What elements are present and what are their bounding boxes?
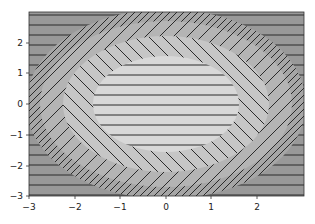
x-tick-label: −1 xyxy=(113,202,126,212)
x-tick-label: −2 xyxy=(68,202,81,212)
y-tick-label: −1 xyxy=(10,130,23,140)
x-axis: −3 −2 −1 0 1 2 xyxy=(22,196,260,212)
y-tick-label: −2 xyxy=(10,161,23,171)
contour-band-1 xyxy=(93,56,239,152)
x-tick-label: −3 xyxy=(22,202,35,212)
x-tick-label: 2 xyxy=(254,202,260,212)
x-tick-label: 0 xyxy=(163,202,169,212)
y-tick-label: 1 xyxy=(17,68,23,78)
y-axis: −3 −2 −1 0 1 2 xyxy=(10,38,29,201)
y-tick-label: −3 xyxy=(10,191,23,201)
x-tick-label: 1 xyxy=(208,202,214,212)
y-tick-label: 0 xyxy=(17,99,23,109)
contour-bands xyxy=(26,9,306,199)
contour-chart: −3 −2 −1 0 1 2 −3 −2 −1 0 1 2 xyxy=(0,0,315,224)
y-tick-label: 2 xyxy=(17,38,23,48)
